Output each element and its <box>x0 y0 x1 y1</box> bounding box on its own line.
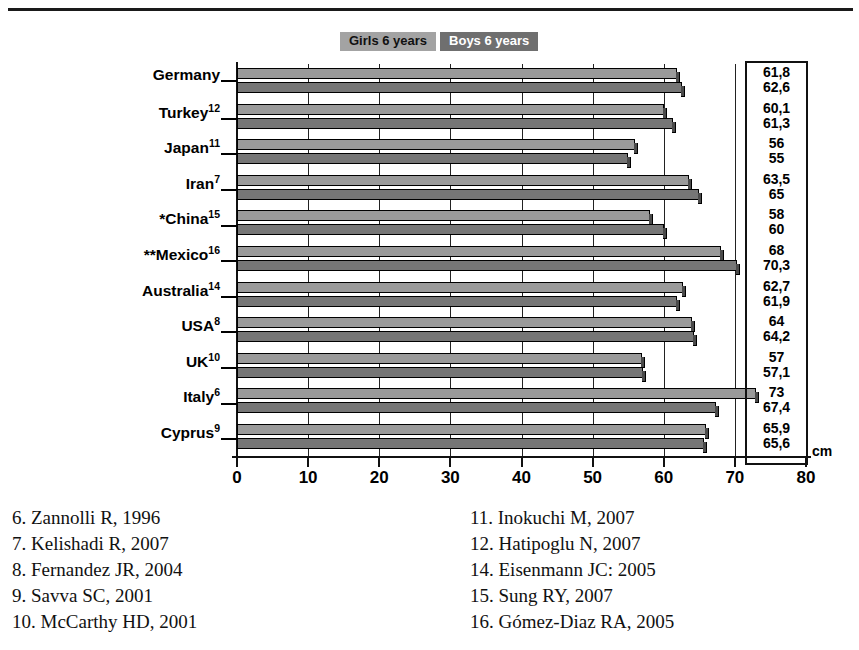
category-label-mexico: **Mexico16 <box>144 244 237 264</box>
value-girls: 61,8 <box>745 65 808 80</box>
category-label-usa: USA8 <box>181 315 237 335</box>
value-girls: 58 <box>745 207 808 222</box>
reference-item: 10. McCarthy HD, 2001 <box>12 609 197 635</box>
chart-row: UK10 <box>0 349 859 385</box>
value-pair-germany: 61,862,6 <box>745 65 808 95</box>
value-girls: 68 <box>745 243 808 258</box>
value-girls: 73 <box>745 385 808 400</box>
value-boys: 60 <box>745 222 808 237</box>
reference-item: 8. Fernandez JR, 2004 <box>12 557 197 583</box>
x-axis-tick <box>734 458 736 467</box>
category-label-australia: Australia14 <box>142 280 237 300</box>
value-boys: 62,6 <box>745 80 808 95</box>
category-label-uk: UK10 <box>186 351 237 371</box>
bar-boys-mexico <box>237 260 737 271</box>
chart-row: USA8 <box>0 313 859 349</box>
bar-boys-germany <box>237 82 682 93</box>
value-girls: 63,5 <box>745 172 808 187</box>
x-axis-tick-label: 30 <box>441 468 460 488</box>
bar-chart: cm 01020304050607080GermanyTurkey12Japan… <box>0 58 859 470</box>
chart-row: *China15 <box>0 206 859 242</box>
category-label-china: *China15 <box>159 208 237 228</box>
chart-row: Australia14 <box>0 278 859 314</box>
bar-boys-usa <box>237 331 694 342</box>
chart-row: **Mexico16 <box>0 242 859 278</box>
chart-row: Iran7 <box>0 171 859 207</box>
category-label-iran: Iran7 <box>186 173 237 193</box>
value-pair-italy: 7367,4 <box>745 385 808 415</box>
x-axis-tick <box>521 458 523 467</box>
value-pair-china: 5860 <box>745 207 808 237</box>
references-column-right: 11. Inokuchi M, 200712. Hatipoglu N, 200… <box>470 505 674 635</box>
x-axis-tick <box>449 458 451 467</box>
value-pair-japan: 5655 <box>745 136 808 166</box>
category-label-germany: Germany <box>153 66 237 84</box>
reference-item: 7. Kelishadi R, 2007 <box>12 531 197 557</box>
bar-boys-china <box>237 224 664 235</box>
chart-legend: Girls 6 years Boys 6 years <box>340 32 538 51</box>
top-divider-rule <box>8 8 853 11</box>
value-boys: 65,6 <box>745 436 808 451</box>
value-pair-uk: 5757,1 <box>745 350 808 380</box>
category-label-italy: Italy6 <box>183 386 237 406</box>
reference-item: 15. Sung RY, 2007 <box>470 583 674 609</box>
legend-item-boys: Boys 6 years <box>440 32 538 51</box>
x-axis-tick-label: 60 <box>654 468 673 488</box>
x-axis-tick-label: 50 <box>583 468 602 488</box>
bar-girls-italy <box>237 388 756 399</box>
bar-girls-mexico <box>237 246 721 257</box>
value-boys: 57,1 <box>745 365 808 380</box>
reference-item: 6. Zannolli R, 1996 <box>12 505 197 531</box>
bar-boys-australia <box>237 296 677 307</box>
value-girls: 56 <box>745 136 808 151</box>
bar-girls-cyprus <box>237 424 706 435</box>
value-girls: 60,1 <box>745 101 808 116</box>
reference-item: 14. Eisenmann JC: 2005 <box>470 557 674 583</box>
bar-girls-japan <box>237 139 635 150</box>
bar-girls-iran <box>237 175 689 186</box>
x-axis-tick-label: 0 <box>232 468 241 488</box>
value-boys: 70,3 <box>745 258 808 273</box>
bar-boys-turkey <box>237 118 673 129</box>
value-pair-iran: 63,565 <box>745 172 808 202</box>
bar-girls-uk <box>237 353 642 364</box>
bar-girls-germany <box>237 68 677 79</box>
value-pair-cyprus: 65,965,6 <box>745 421 808 451</box>
category-label-japan: Japan11 <box>164 137 237 157</box>
references-column-left: 6. Zannolli R, 19967. Kelishadi R, 20078… <box>12 505 197 635</box>
value-boys: 61,3 <box>745 116 808 131</box>
value-girls: 64 <box>745 314 808 329</box>
bar-girls-china <box>237 210 650 221</box>
x-axis-tick-label: 80 <box>797 468 816 488</box>
chart-row: Japan11 <box>0 135 859 171</box>
value-boys: 61,9 <box>745 294 808 309</box>
chart-row: Italy6 <box>0 384 859 420</box>
references-section: 6. Zannolli R, 19967. Kelishadi R, 20078… <box>0 505 859 650</box>
chart-row: Germany <box>0 64 859 100</box>
x-axis-tick <box>236 458 238 467</box>
reference-item: 16. Gómez-Diaz RA, 2005 <box>470 609 674 635</box>
x-axis-tick-label: 10 <box>299 468 318 488</box>
chart-row: Cyprus9 <box>0 420 859 456</box>
x-axis-tick-label: 20 <box>370 468 389 488</box>
bar-boys-cyprus <box>237 438 704 449</box>
value-pair-turkey: 60,161,3 <box>745 101 808 131</box>
x-axis-tick-label: 40 <box>512 468 531 488</box>
value-pair-australia: 62,761,9 <box>745 279 808 309</box>
x-axis-tick <box>592 458 594 467</box>
value-boys: 64,2 <box>745 329 808 344</box>
x-axis-tick <box>378 458 380 467</box>
reference-item: 11. Inokuchi M, 2007 <box>470 505 674 531</box>
value-pair-usa: 6464,2 <box>745 314 808 344</box>
bar-boys-japan <box>237 153 628 164</box>
reference-item: 12. Hatipoglu N, 2007 <box>470 531 674 557</box>
bar-girls-usa <box>237 317 692 328</box>
x-axis-tick-label: 70 <box>725 468 744 488</box>
value-girls: 62,7 <box>745 279 808 294</box>
x-axis-tick <box>307 458 309 467</box>
bar-girls-turkey <box>237 104 664 115</box>
category-label-cyprus: Cyprus9 <box>161 422 237 442</box>
category-label-turkey: Turkey12 <box>159 102 237 122</box>
bar-girls-australia <box>237 282 683 293</box>
chart-row: Turkey12 <box>0 100 859 136</box>
